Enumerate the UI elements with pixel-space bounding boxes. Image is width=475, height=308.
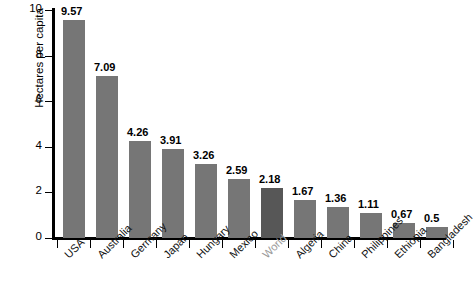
bar-hungary bbox=[195, 164, 217, 238]
x-tick-china bbox=[321, 240, 322, 248]
x-tick-world bbox=[255, 240, 256, 248]
x-tick-bangladesh bbox=[420, 240, 421, 248]
bar-value-world: 2.18 bbox=[259, 173, 280, 185]
x-tick-germany bbox=[123, 240, 124, 248]
bar-value-bangladesh: 0.5 bbox=[424, 212, 439, 224]
x-tick-end bbox=[453, 240, 454, 248]
bar-value-germany: 4.26 bbox=[127, 126, 148, 138]
x-tick-ethiopia bbox=[387, 240, 388, 248]
x-tick-usa bbox=[57, 240, 58, 248]
bar-value-australia: 7.09 bbox=[94, 61, 115, 73]
bar-value-philippines: 1.11 bbox=[358, 198, 379, 210]
bar-germany bbox=[129, 141, 151, 238]
x-tick-algeria bbox=[288, 240, 289, 248]
bar-usa bbox=[63, 20, 85, 238]
bar-value-hungary: 3.26 bbox=[193, 149, 214, 161]
bar-australia bbox=[96, 76, 118, 238]
bar-value-mexico: 2.59 bbox=[226, 164, 247, 176]
bar-value-usa: 9.57 bbox=[61, 5, 82, 17]
x-tick-australia bbox=[90, 240, 91, 248]
bar-value-algeria: 1.67 bbox=[292, 185, 313, 197]
bar-value-china: 1.36 bbox=[325, 192, 346, 204]
x-tick-philippines bbox=[354, 240, 355, 248]
x-tick-japan bbox=[156, 240, 157, 248]
y-tick-0 bbox=[45, 238, 52, 239]
x-tick-mexico bbox=[222, 240, 223, 248]
bar-value-japan: 3.91 bbox=[160, 134, 181, 146]
bars-layer bbox=[0, 0, 460, 238]
x-tick-hungary bbox=[189, 240, 190, 248]
